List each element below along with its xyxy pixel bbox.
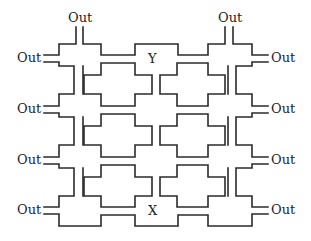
label-out-right-3: Out [271,152,296,167]
cross-block-r1-c1 [84,63,152,106]
label-out-left-4: Out [17,202,42,217]
marker-x: X [148,203,158,218]
marker-y: Y [147,51,157,66]
right-wall-seg-1 [236,62,268,106]
label-out-top-right: Out [218,10,243,25]
outer-wall-top-left [44,27,76,55]
left-wall-seg-1 [44,62,74,106]
maze-diagram: Out Out Out Out Out Out Out Out Out Out … [0,0,311,241]
left-wall-seg-2 [44,113,74,157]
cross-block-r2-c1 [84,114,152,157]
outer-wall-top-right [233,27,268,55]
label-out-left-2: Out [17,101,42,116]
right-wall-seg-2 [236,113,268,157]
label-out-right-2: Out [271,101,296,116]
label-out-right-1: Out [271,50,296,65]
label-out-right-4: Out [271,202,296,217]
label-out-left-1: Out [17,50,42,65]
cross-block-r3-c2 [160,165,225,207]
cross-block-r1-c2 [160,63,225,106]
maze-svg: Out Out Out Out Out Out Out Out Out Out … [0,0,311,241]
left-wall-seg-3 [44,164,74,207]
cross-block-r3-c1 [84,165,152,207]
label-out-top-left: Out [68,10,93,25]
label-out-left-3: Out [17,152,42,167]
right-wall-seg-3 [236,164,268,207]
cross-block-r2-c2 [160,114,225,157]
